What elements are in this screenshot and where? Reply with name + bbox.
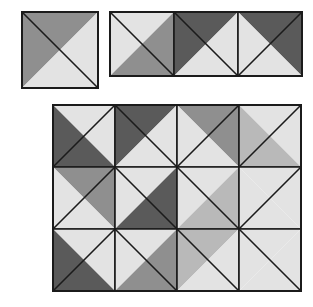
quilt-cell [53, 167, 115, 229]
quilt-cell [53, 105, 115, 167]
quilt-cell [115, 105, 177, 167]
quilt-cell [115, 167, 177, 229]
quilt-cell [239, 229, 301, 291]
quilt-cell [110, 12, 174, 76]
figure-canvas [0, 0, 313, 307]
quilt-cell [177, 229, 239, 291]
quilt-cell [177, 167, 239, 229]
quilt-cell [115, 229, 177, 291]
quilt-cell [174, 12, 238, 76]
quilt-cell [238, 12, 302, 76]
quilt-block-panel [52, 104, 302, 292]
quilt-cell [22, 12, 98, 88]
quilt-cell [177, 105, 239, 167]
quilt-cell [239, 105, 301, 167]
quilt-cell [53, 229, 115, 291]
single-unit-panel [21, 11, 99, 89]
three-unit-strip-panel [109, 11, 303, 77]
quilt-cell [239, 167, 301, 229]
